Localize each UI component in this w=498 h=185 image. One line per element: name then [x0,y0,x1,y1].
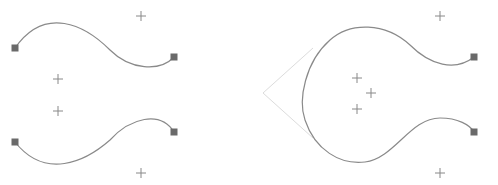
control-point-cross[interactable] [136,168,146,178]
control-point-cross[interactable] [435,168,445,178]
control-point-cross[interactable] [53,74,63,84]
anchor-point[interactable] [171,54,178,61]
left-panel [12,11,178,178]
upper-s-curve [15,23,174,67]
control-point-cross[interactable] [435,11,445,21]
control-point-cross[interactable] [366,88,376,98]
anchor-point[interactable] [12,139,19,146]
anchor-point[interactable] [471,129,478,136]
control-point-cross[interactable] [53,106,63,116]
bezier-diagram [0,0,498,185]
control-point-cross[interactable] [136,11,146,21]
anchor-point[interactable] [12,45,19,52]
bulb-curve [302,27,474,162]
right-panel [263,11,478,178]
anchor-point[interactable] [171,129,178,136]
anchor-point[interactable] [471,54,478,61]
control-point-cross[interactable] [352,73,362,83]
control-point-cross[interactable] [352,104,362,114]
guide-line [263,48,313,138]
lower-s-curve [15,119,174,164]
